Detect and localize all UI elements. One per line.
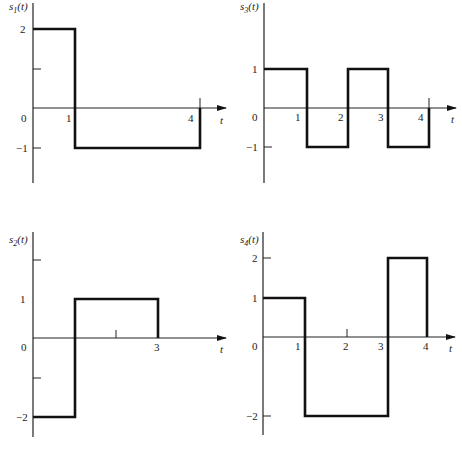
s2-ylabel: s2(t) <box>9 233 28 248</box>
s2-xlabel: t <box>220 343 224 355</box>
s1-xtick-label-4: 4 <box>188 112 194 124</box>
s4-origin-label: 0 <box>252 340 258 352</box>
s4-xtick-label-4: 4 <box>423 340 429 352</box>
signal-plots-figure: s1(t) 2 −1 0 1 4 t s3(t) 1 −1 0 1 2 3 4 … <box>0 0 462 454</box>
plot-s4: s4(t) 2 1 −2 0 1 2 3 4 t <box>240 232 455 435</box>
s3-xtick-label-4: 4 <box>418 111 424 123</box>
s1-xlabel: t <box>220 114 224 126</box>
s4-xtick-label-1: 1 <box>295 340 301 352</box>
s2-signal <box>33 299 158 417</box>
s3-ytick-label-m1: −1 <box>246 141 258 153</box>
s3-ylabel: s3(t) <box>240 0 259 15</box>
s1-ylabel: s1(t) <box>9 0 28 15</box>
s1-signal <box>33 29 200 148</box>
plot-s3: s3(t) 1 −1 0 1 2 3 4 t <box>240 0 456 183</box>
s2-origin-label: 0 <box>21 341 27 353</box>
s3-xtick-label-2: 2 <box>338 111 344 123</box>
s1-origin-label: 0 <box>21 112 27 124</box>
s1-ytick-label-2: 2 <box>20 23 26 35</box>
s1-xtick-label-1: 1 <box>66 112 72 124</box>
plot-s2: s2(t) 1 −2 0 3 t <box>9 232 226 437</box>
s4-ylabel: s4(t) <box>240 233 259 248</box>
s2-ytick-label-m2: −2 <box>16 411 28 423</box>
s2-ytick-label-1: 1 <box>20 293 26 305</box>
s3-xtick-label-3: 3 <box>378 111 384 123</box>
s4-xtick-label-3: 3 <box>378 340 384 352</box>
s4-ytick-label-1: 1 <box>252 292 258 304</box>
s3-xlabel: t <box>451 113 455 125</box>
s4-xlabel: t <box>449 342 453 354</box>
s3-xtick-label-1: 1 <box>295 111 301 123</box>
s4-xtick-label-2: 2 <box>343 340 349 352</box>
s2-xtick-label-3: 3 <box>154 341 160 353</box>
s4-ytick-label-2: 2 <box>252 252 258 264</box>
plot-s1: s1(t) 2 −1 0 1 4 t <box>9 0 226 183</box>
s3-origin-label: 0 <box>252 111 258 123</box>
s3-ytick-label-1: 1 <box>252 63 258 75</box>
s4-ytick-label-m2: −2 <box>246 410 258 422</box>
s1-ytick-label-m1: −1 <box>16 142 28 154</box>
